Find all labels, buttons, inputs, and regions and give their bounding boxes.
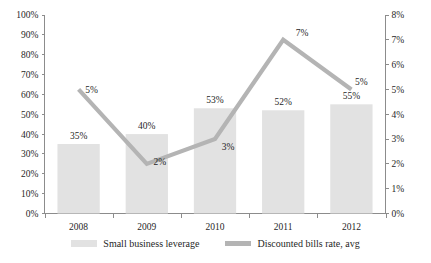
right-axis-tick-label: 3% (392, 134, 405, 144)
line-label-2012: 5% (355, 77, 368, 87)
left-axis-tick-label: 50% (21, 110, 39, 120)
bar-2011 (262, 110, 304, 213)
bar-2008 (57, 144, 99, 213)
category-axis-labels: 20082009201020112012 (69, 222, 361, 232)
bar-swatch-icon (71, 240, 97, 247)
legend-label-discounted-bills-rate: Discounted bills rate, avg (257, 238, 359, 249)
left-axis-tick-label: 90% (21, 30, 39, 40)
line-label-2010: 3% (222, 142, 235, 152)
bar-label-2008: 35% (70, 131, 88, 141)
bar-2010 (194, 108, 236, 213)
legend-label-small-business-leverage: Small business leverage (103, 238, 199, 249)
category-label-2010: 2010 (206, 222, 225, 232)
left-axis-tick-label: 0% (26, 209, 39, 219)
legend-item-discounted-bills-rate[interactable]: Discounted bills rate, avg (225, 238, 359, 249)
right-axis-ticks: 0%1%2%3%4%5%6%7%8% (386, 10, 405, 219)
category-label-2012: 2012 (342, 222, 361, 232)
right-axis-tick-label: 8% (392, 10, 405, 20)
left-axis-tick-label: 60% (21, 90, 39, 100)
right-axis-tick-label: 5% (392, 85, 405, 95)
bar-label-2012: 55% (343, 91, 361, 101)
right-axis-tick-label: 1% (392, 184, 405, 194)
line-swatch-icon (225, 241, 251, 246)
category-axis-ticks (46, 214, 387, 218)
bar-2012 (330, 104, 372, 213)
left-axis-tick-label: 40% (21, 130, 39, 140)
left-axis-tick-label: 70% (21, 70, 39, 80)
right-axis-tick-label: 6% (392, 60, 405, 70)
legend-item-small-business-leverage[interactable]: Small business leverage (71, 238, 199, 249)
left-axis-tick-label: 10% (21, 189, 39, 199)
chart-plot-area: 0%10%20%30%40%50%60%70%80%90%100% 0%1%2%… (0, 0, 431, 263)
line-label-2008: 5% (85, 85, 98, 95)
left-axis-tick-label: 30% (21, 149, 39, 159)
bar-label-2011: 52% (274, 97, 292, 107)
category-label-2011: 2011 (274, 222, 293, 232)
line-label-2009: 2% (153, 157, 166, 167)
left-axis-tick-label: 80% (21, 50, 39, 60)
right-axis-tick-label: 7% (392, 35, 405, 45)
left-axis-ticks: 0%10%20%30%40%50%60%70%80%90%100% (16, 10, 44, 219)
right-axis-tick-label: 4% (392, 110, 405, 120)
left-axis-tick-label: 20% (21, 169, 39, 179)
right-axis-tick-label: 0% (392, 209, 405, 219)
category-label-2008: 2008 (69, 222, 88, 232)
dual-axis-chart: 0%10%20%30%40%50%60%70%80%90%100% 0%1%2%… (0, 0, 431, 263)
right-axis-tick-label: 2% (392, 159, 405, 169)
bar-label-2010: 53% (206, 95, 224, 105)
bar-label-2009: 40% (138, 121, 156, 131)
left-axis-tick-label: 100% (16, 10, 38, 20)
line-label-2011: 7% (296, 28, 309, 38)
chart-legend: Small business leverage Discounted bills… (0, 238, 431, 249)
category-label-2009: 2009 (137, 222, 156, 232)
